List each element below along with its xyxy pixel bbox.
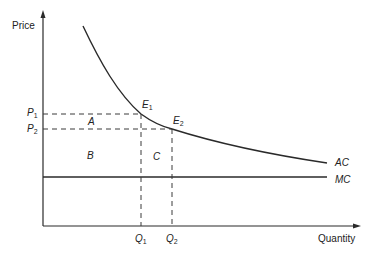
p1-label: P1 bbox=[27, 108, 38, 119]
region-b-label: B bbox=[87, 151, 94, 161]
cost-diagram bbox=[0, 0, 378, 261]
p2-sub: 2 bbox=[34, 128, 38, 135]
ac-curve-label: AC bbox=[335, 158, 349, 168]
q2-sub: 2 bbox=[174, 238, 178, 245]
x-axis-arrow-icon bbox=[353, 224, 361, 229]
p2-label: P2 bbox=[27, 124, 38, 135]
e1-sub: 1 bbox=[149, 104, 153, 111]
region-c-label: C bbox=[153, 152, 160, 162]
ac-curve bbox=[83, 26, 327, 163]
e2-label: E2 bbox=[173, 116, 184, 127]
q2-main: Q bbox=[166, 233, 174, 244]
q1-sub: 1 bbox=[143, 238, 147, 245]
e1-main: E bbox=[142, 99, 149, 110]
y-axis-arrow-icon bbox=[41, 10, 46, 18]
e1-label: E1 bbox=[142, 100, 153, 111]
mc-curve-label: MC bbox=[335, 175, 351, 185]
p1-sub: 1 bbox=[34, 112, 38, 119]
e2-sub: 2 bbox=[180, 120, 184, 127]
p2-main: P bbox=[27, 123, 34, 134]
q1-label: Q1 bbox=[135, 234, 147, 245]
region-a-label: A bbox=[88, 117, 95, 127]
e2-main: E bbox=[173, 115, 180, 126]
p1-main: P bbox=[27, 107, 34, 118]
y-axis-label: Price bbox=[12, 21, 35, 31]
q2-label: Q2 bbox=[166, 234, 178, 245]
x-axis-label: Quantity bbox=[318, 234, 355, 244]
q1-main: Q bbox=[135, 233, 143, 244]
